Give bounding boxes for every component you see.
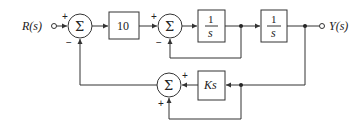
input-label: R(s) [21, 19, 42, 33]
sigma-symbol: Σ [165, 19, 174, 34]
minus-sign: − [156, 37, 162, 48]
gain-label: 10 [117, 19, 129, 33]
plus-sign: + [158, 98, 164, 109]
denominator: s [271, 26, 276, 40]
input-terminal [52, 24, 57, 29]
output-terminal [320, 24, 325, 29]
output-label: Y(s) [329, 19, 348, 33]
summing-junction-1: Σ + − [62, 11, 92, 48]
derivative-label: Ks [203, 78, 217, 92]
gain-block: 10 [109, 12, 139, 39]
block-diagram: R(s) Σ + − 10 Σ + − 1 s 1 s [0, 0, 362, 127]
integrator-block-1: 1 s [198, 10, 225, 42]
derivative-block: Ks [198, 71, 225, 100]
plus-sign: + [151, 11, 157, 22]
sigma-symbol: Σ [164, 78, 173, 93]
main-feedback-wire [80, 39, 157, 85]
numerator: 1 [271, 13, 277, 25]
summing-junction-2: Σ + − [151, 11, 182, 48]
plus-sign: + [182, 70, 188, 81]
sigma-symbol: Σ [75, 19, 84, 34]
integrator-block-2: 1 s [261, 10, 287, 42]
denominator: s [208, 26, 213, 40]
plus-sign: + [62, 11, 68, 22]
minus-sign: − [66, 37, 72, 48]
numerator: 1 [208, 13, 214, 25]
summing-junction-3: Σ + + [157, 70, 188, 109]
